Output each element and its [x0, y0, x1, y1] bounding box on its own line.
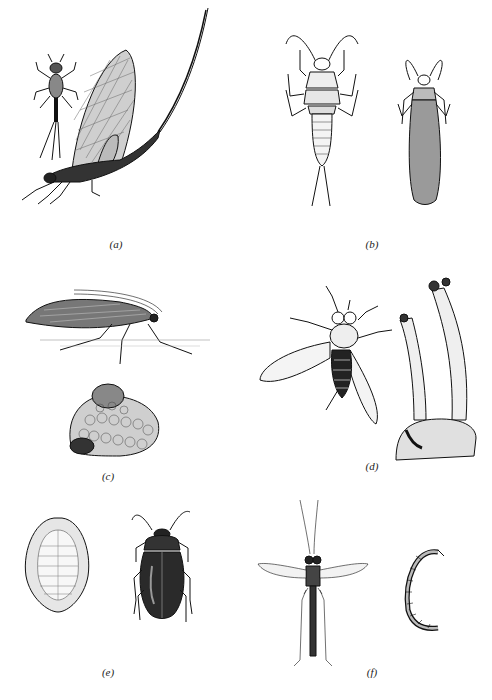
panel-c: (c)	[0, 260, 246, 490]
panel-label-c: (c)	[88, 470, 128, 482]
panel-e: (e)	[0, 490, 246, 700]
adult-stonefly-illustration	[246, 0, 492, 260]
panel-label-f: (f)	[352, 666, 392, 678]
panel-b: (b)	[246, 0, 492, 260]
adult-mayfly-illustration	[0, 0, 246, 260]
panel-label-d: (d)	[352, 460, 392, 472]
panel-f: (f)	[246, 490, 492, 700]
figure-plate: (a)	[0, 0, 492, 700]
panel-a: (a)	[0, 0, 246, 260]
panel-label-e: (e)	[88, 666, 128, 678]
panel-label-b: (b)	[352, 238, 392, 250]
caddisfly-case-illustration	[0, 260, 246, 490]
blackfly-larvae-illustration	[246, 260, 492, 490]
panel-d: (d)	[246, 260, 492, 490]
panel-label-a: (a)	[96, 238, 136, 250]
